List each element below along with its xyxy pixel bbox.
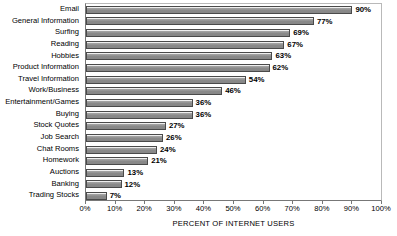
x-axis-tick-label: 90% — [344, 204, 359, 213]
category-axis-labels: EmailGeneral InformationSurfingReadingHo… — [0, 3, 82, 201]
bar-value-label: 62% — [273, 64, 289, 72]
category-label: Buying — [0, 108, 82, 120]
bar — [86, 169, 124, 177]
x-axis-tick-label: 30% — [166, 204, 181, 213]
category-label: Trading Stocks — [0, 189, 82, 201]
x-axis-tick-label: 10% — [107, 204, 122, 213]
bar-value-label: 77% — [317, 18, 333, 26]
bar — [86, 41, 284, 49]
x-axis-tick-label: 50% — [225, 204, 240, 213]
category-label: Travel Information — [0, 73, 82, 85]
bar-value-label: 7% — [110, 192, 121, 200]
bar-value-label: 36% — [196, 111, 212, 119]
bar-row: 90% — [86, 4, 381, 16]
bar — [86, 17, 314, 25]
bar-row: 67% — [86, 39, 381, 51]
x-axis-tick-labels: 0%10%20%30%40%50%60%70%80%90%100% — [85, 204, 382, 216]
category-label: Chat Rooms — [0, 143, 82, 155]
category-label: Auctions — [0, 166, 82, 178]
bar — [86, 146, 157, 154]
category-label: Work/Business — [0, 84, 82, 96]
category-label: General Information — [0, 15, 82, 27]
bar — [86, 192, 107, 200]
bar-row: 77% — [86, 16, 381, 28]
bars-container: 90%77%69%67%63%62%54%46%36%36%27%26%24%2… — [86, 4, 381, 200]
bar-value-label: 13% — [127, 169, 143, 177]
category-label: Stock Quotes — [0, 119, 82, 131]
bar — [86, 134, 163, 142]
bar-value-label: 63% — [275, 52, 291, 60]
x-axis-tick-label: 40% — [196, 204, 211, 213]
bar — [86, 87, 222, 95]
x-axis-tick-label: 0% — [80, 204, 91, 213]
bar — [86, 99, 193, 107]
category-label: Job Search — [0, 131, 82, 143]
bar-row: 62% — [86, 62, 381, 74]
category-label: Reading — [0, 38, 82, 50]
bar-row: 27% — [86, 120, 381, 132]
plot-area: 90%77%69%67%63%62%54%46%36%36%27%26%24%2… — [85, 3, 382, 201]
bar — [86, 111, 193, 119]
bar-value-label: 69% — [293, 29, 309, 37]
bar-row: 69% — [86, 27, 381, 39]
bar — [86, 64, 270, 72]
bar-row: 63% — [86, 51, 381, 63]
bar-value-label: 26% — [166, 134, 182, 142]
bar-row: 36% — [86, 97, 381, 109]
category-label: Surfing — [0, 26, 82, 38]
bar-value-label: 67% — [287, 41, 303, 49]
bar-row: 12% — [86, 179, 381, 191]
bar-row: 54% — [86, 74, 381, 86]
bar-value-label: 24% — [160, 146, 176, 154]
bar-value-label: 46% — [225, 87, 241, 95]
x-axis-tick-label: 60% — [255, 204, 270, 213]
x-axis-title: PERCENT OF INTERNET USERS — [85, 219, 382, 228]
x-axis-tick-label: 20% — [137, 204, 152, 213]
category-label: Entertainment/Games — [0, 96, 82, 108]
category-label: Banking — [0, 178, 82, 190]
x-axis-tick-label: 70% — [285, 204, 300, 213]
bar-chart: EmailGeneral InformationSurfingReadingHo… — [0, 0, 397, 236]
category-label: Hobbies — [0, 50, 82, 62]
bar-value-label: 12% — [125, 181, 141, 189]
bar — [86, 180, 122, 188]
bar — [86, 6, 352, 14]
bar-value-label: 36% — [196, 99, 212, 107]
bar-row: 24% — [86, 144, 381, 156]
category-label: Homework — [0, 154, 82, 166]
bar — [86, 157, 148, 165]
bar — [86, 76, 246, 84]
bar-row: 13% — [86, 167, 381, 179]
bar-value-label: 54% — [249, 76, 265, 84]
bar-row: 26% — [86, 132, 381, 144]
bar — [86, 52, 272, 60]
bar-value-label: 90% — [355, 6, 371, 14]
bar — [86, 29, 290, 37]
x-axis-tick-label: 80% — [314, 204, 329, 213]
category-label: Email — [0, 3, 82, 15]
bar-row: 21% — [86, 155, 381, 167]
bar-value-label: 27% — [169, 122, 185, 130]
bar-value-label: 21% — [151, 157, 167, 165]
x-axis-tick-label: 100% — [371, 204, 390, 213]
bar — [86, 122, 166, 130]
bar-row: 36% — [86, 109, 381, 121]
bar-row: 46% — [86, 85, 381, 97]
category-label: Product Information — [0, 61, 82, 73]
